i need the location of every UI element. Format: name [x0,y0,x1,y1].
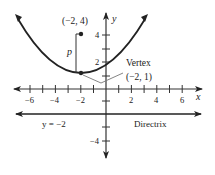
x-tick-label: 6 [180,95,184,105]
parabola-arrow-right-icon [141,14,148,22]
y-tick-label: 4 [95,30,100,40]
parabola-arrow-left-icon [15,14,22,22]
x-tick-label: −4 [50,95,60,105]
vertex-title: Vertex [126,58,151,68]
parabola-diagram: (−2, 4) p Vertex (−2, 1) y x −6 −4 −2 2 … [0,0,215,175]
directrix-label: Directrix [134,119,167,129]
vertex-label: (−2, 1) [126,72,152,83]
vertex-point [79,71,83,75]
x-axis-label: x [195,91,201,102]
y-axis [102,13,110,158]
y-axis-label: y [111,13,117,24]
vertex-callout-line [83,73,123,83]
focus-point [79,32,83,36]
y-tick-label: −4 [90,136,100,146]
y-tick-label: 2 [95,57,99,67]
x-tick-label: 4 [154,95,159,105]
x-tick-label: −2 [76,95,85,105]
focus-label: (−2, 4) [62,16,88,27]
directrix-equation: y = −2 [42,119,66,129]
x-axis [14,85,202,93]
x-tick-label: −6 [25,95,34,105]
x-tick-label: 2 [129,95,133,105]
distance-p-label: p [66,46,72,57]
